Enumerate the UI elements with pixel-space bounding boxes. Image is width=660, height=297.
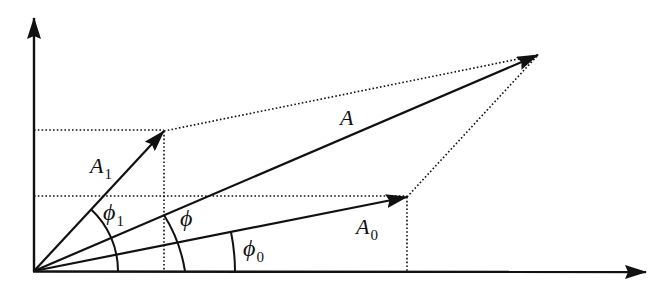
label-phi-main: ϕ — [180, 205, 192, 231]
label-phi1-main: ϕ — [103, 199, 115, 225]
x-axis — [33, 272, 646, 273]
label-phi1-sub: 1 — [116, 213, 124, 229]
guide-A0-to-A — [407, 55, 538, 197]
label-phi0-main: ϕ — [243, 235, 255, 261]
phasor-diagram: A1 A A0 ϕ1 ϕ ϕ0 — [0, 0, 660, 297]
label-phi1: ϕ1 — [103, 200, 124, 224]
label-A1-sub: 1 — [104, 166, 112, 182]
label-A: A — [340, 107, 353, 129]
label-phi: ϕ — [180, 206, 192, 230]
label-A0-sub: 0 — [370, 227, 378, 243]
label-phi0: ϕ0 — [243, 236, 264, 260]
label-phi0-sub: 0 — [256, 249, 264, 265]
label-A1: A1 — [90, 155, 112, 177]
diagram-canvas — [0, 0, 660, 297]
label-A0-main: A — [356, 214, 369, 239]
label-A0: A0 — [356, 216, 378, 238]
label-A1-main: A — [90, 153, 103, 178]
vector-A0 — [34, 197, 407, 271]
label-A-main: A — [340, 105, 353, 130]
angle-arc-phi0 — [231, 232, 235, 271]
